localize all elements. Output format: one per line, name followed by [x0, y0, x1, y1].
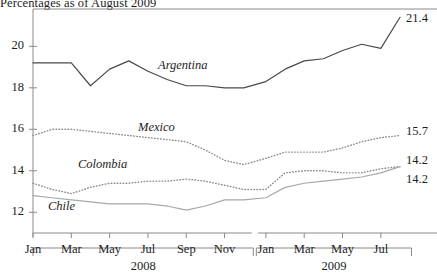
x-axis-tick-label: Jul	[361, 242, 401, 257]
series-lines	[33, 17, 400, 210]
series-label-chile: Chile	[48, 199, 75, 214]
y-axis-tick-label: 20	[2, 38, 24, 53]
x-axis-tick-label: May	[323, 242, 363, 257]
x-axis-tick-label: Sep	[166, 242, 206, 257]
y-axis-tick-label: 18	[2, 80, 24, 95]
x-axis-tick-label: May	[90, 242, 130, 257]
axis-lines	[29, 9, 437, 238]
year-label: 2009	[304, 259, 364, 274]
x-axis-tick-label: Mar	[284, 242, 324, 257]
series-line-argentina	[33, 17, 400, 88]
year-label: 2008	[113, 259, 173, 274]
x-axis-tick-label: Mar	[51, 242, 91, 257]
y-axis-tick-label: 14	[2, 163, 24, 178]
series-label-mexico: Mexico	[138, 120, 175, 135]
end-label-mexico: 15.7	[406, 124, 428, 139]
series-label-colombia: Colombia	[78, 157, 127, 172]
x-axis-tick-label: Jan	[13, 242, 53, 257]
x-axis-tick-label: Jan	[246, 242, 286, 257]
y-axis-tick-label: 12	[2, 204, 24, 219]
end-label-colombia: 14.2	[406, 153, 428, 168]
end-label-chile: 14.2	[406, 172, 428, 187]
chart-container: Percentages as of August 2009 1214161820…	[0, 0, 437, 278]
chart-plot-area	[0, 0, 437, 278]
series-label-argentina: Argentina	[158, 58, 208, 73]
x-axis-tick-label: Jul	[128, 242, 168, 257]
end-label-argentina: 21.4	[406, 11, 428, 26]
x-axis-tick-label: Nov	[205, 242, 245, 257]
y-axis-tick-label: 16	[2, 121, 24, 136]
